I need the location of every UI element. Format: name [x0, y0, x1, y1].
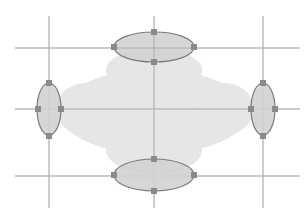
handle-right-e[interactable] — [272, 106, 278, 112]
handle-left-n[interactable] — [46, 80, 52, 86]
handle-right-s[interactable] — [260, 133, 266, 139]
handle-top-s[interactable] — [151, 59, 157, 65]
handle-left-w[interactable] — [35, 106, 41, 112]
ellipse-right[interactable] — [248, 80, 278, 139]
handle-right-w[interactable] — [248, 106, 254, 112]
ellipse-left[interactable] — [35, 80, 64, 139]
ellipse-handles-diagram — [0, 0, 308, 219]
handle-left-e[interactable] — [58, 106, 64, 112]
handle-top-n[interactable] — [151, 29, 157, 35]
handle-top-e[interactable] — [191, 44, 197, 50]
handle-bottom-w[interactable] — [111, 172, 117, 178]
handle-bottom-s[interactable] — [151, 188, 157, 194]
handle-top-w[interactable] — [111, 44, 117, 50]
cloud-shape — [56, 48, 254, 174]
handle-bottom-n[interactable] — [151, 156, 157, 162]
handle-right-n[interactable] — [260, 80, 266, 86]
handle-left-s[interactable] — [46, 133, 52, 139]
handle-bottom-e[interactable] — [191, 172, 197, 178]
